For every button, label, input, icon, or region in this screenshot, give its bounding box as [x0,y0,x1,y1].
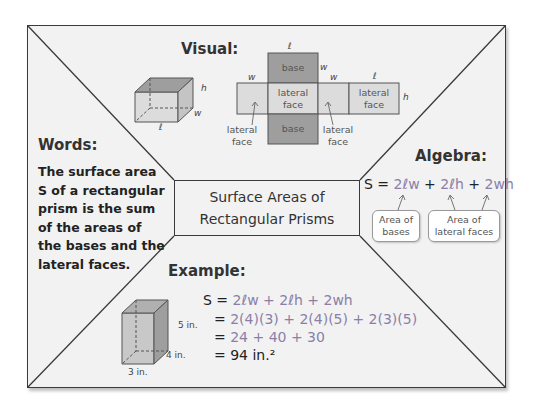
net-dim-w-left: w [248,72,255,82]
net-center-face-line2: face [268,99,318,111]
net-top-base: base [268,62,318,74]
step-expr: 2(4)(3) + 2(4)(5) + 2(3)(5) [230,311,417,327]
net-right-callout: lateral face [318,124,358,148]
title-line2: Rectangular Prisms [200,208,335,230]
step-expr: 24 + 40 + 30 [230,329,325,345]
callout-lateral-line1: Area of [429,214,499,226]
step-prefix: = [214,347,230,363]
visual-heading: Visual: [181,40,238,58]
net-right-face: lateral face [349,87,399,111]
example-step-3: = 24 + 40 + 30 [214,329,325,345]
net-right-face-line2: face [349,99,399,111]
net-center-face-line1: lateral [268,87,318,99]
net-left-callout-line2: face [222,136,262,148]
net-left-callout-line1: lateral [222,124,262,136]
plus-sign: + [464,176,485,192]
example-step-4: = 94 in.² [214,347,275,363]
title-box: Surface Areas of Rectangular Prisms [174,180,360,236]
callout-lateral-line2: lateral faces [429,226,499,238]
algebra-lhs: S = [364,176,394,192]
example-prism-icon [122,300,168,364]
example-dim-width: 3 in. [128,367,148,377]
example-dim-height: 5 in. [178,320,198,330]
net-right-face-line1: lateral [349,87,399,99]
net-dim-l-top: ℓ [288,41,292,51]
net-dim-w-base: w [320,62,327,72]
step-expr: 2ℓw + 2ℓh + 2wh [233,292,353,308]
step-result: 94 in.² [230,347,275,363]
step-prefix: = [214,311,230,327]
net-right-callout-line2: face [318,136,358,148]
net-left-callout: lateral face [222,124,262,148]
step-prefix: S = [203,292,233,308]
algebra-term-lh: 2ℓh [440,176,464,192]
example-step-2: = 2(4)(3) + 2(4)(5) + 2(3)(5) [214,311,417,327]
words-text: The surface area S of a rectangular pris… [38,163,166,275]
algebra-formula: S = 2ℓw + 2ℓh + 2wh [364,176,514,192]
net-dim-l-right: ℓ [373,71,377,81]
callout-area-of-lateral-faces: Area of lateral faces [428,210,500,242]
title-line1: Surface Areas of [209,186,324,208]
plus-sign: + [420,176,441,192]
example-heading: Example: [168,262,246,280]
net-bottom-base: base [268,123,318,135]
net-dim-w-mid: w [330,72,337,82]
algebra-heading: Algebra: [415,147,487,165]
prism-label-w: w [194,108,201,118]
callout-area-of-bases: Area of bases [372,210,420,242]
net-center-face: lateral face [268,87,318,111]
step-prefix: = [214,329,230,345]
example-step-1: S = 2ℓw + 2ℓh + 2wh [203,292,353,308]
algebra-arrows [398,195,489,210]
prism-label-l: ℓ [159,122,163,132]
algebra-term-wh: 2wh [485,176,514,192]
prism-icon [135,78,193,122]
net-right-callout-line1: lateral [318,124,358,136]
words-heading: Words: [38,136,97,154]
example-dim-depth: 4 in. [166,350,186,360]
algebra-term-bases: 2ℓw [394,176,420,192]
net-dim-h: h [403,92,409,102]
prism-label-h: h [201,83,207,93]
callout-bases-line2: bases [373,226,419,238]
callout-bases-line1: Area of [373,214,419,226]
